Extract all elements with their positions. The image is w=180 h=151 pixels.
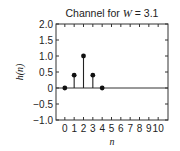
stem-marker <box>81 54 86 59</box>
y-tick-label: 1.0 <box>39 51 53 62</box>
y-tick-label: 1.5 <box>39 35 53 46</box>
plot-frame <box>56 24 168 120</box>
y-tick-label: 0 <box>47 83 53 94</box>
x-tick-label: 3 <box>90 123 96 134</box>
chart-title: Channel for W = 3.1 <box>66 7 159 19</box>
stem-marker <box>72 73 77 78</box>
y-axis-ticks: −1.0−0.500.51.01.52.0 <box>33 19 168 126</box>
y-tick-label: −1.0 <box>33 115 53 126</box>
x-tick-label: 9 <box>146 123 152 134</box>
stem-series <box>62 54 104 91</box>
stem-marker <box>100 86 105 91</box>
stem-marker <box>90 73 95 78</box>
y-tick-label: −0.5 <box>33 99 53 110</box>
stem-chart: Channel for W = 3.1 −1.0−0.500.51.01.52.… <box>0 0 180 151</box>
x-tick-label: 1 <box>71 123 77 134</box>
x-tick-label: 2 <box>81 123 87 134</box>
x-tick-label: 10 <box>153 123 165 134</box>
x-axis-label: n <box>110 136 115 147</box>
stem-marker <box>62 86 67 91</box>
x-axis-ticks: 012345678910 <box>62 24 164 134</box>
x-tick-label: 8 <box>137 123 143 134</box>
y-tick-label: 2.0 <box>39 19 53 30</box>
x-tick-label: 0 <box>62 123 68 134</box>
x-tick-label: 4 <box>99 123 105 134</box>
x-tick-label: 7 <box>127 123 133 134</box>
y-tick-label: 0.5 <box>39 67 53 78</box>
x-tick-label: 6 <box>118 123 124 134</box>
y-axis-label: h(n) <box>14 63 26 80</box>
x-tick-label: 5 <box>109 123 115 134</box>
